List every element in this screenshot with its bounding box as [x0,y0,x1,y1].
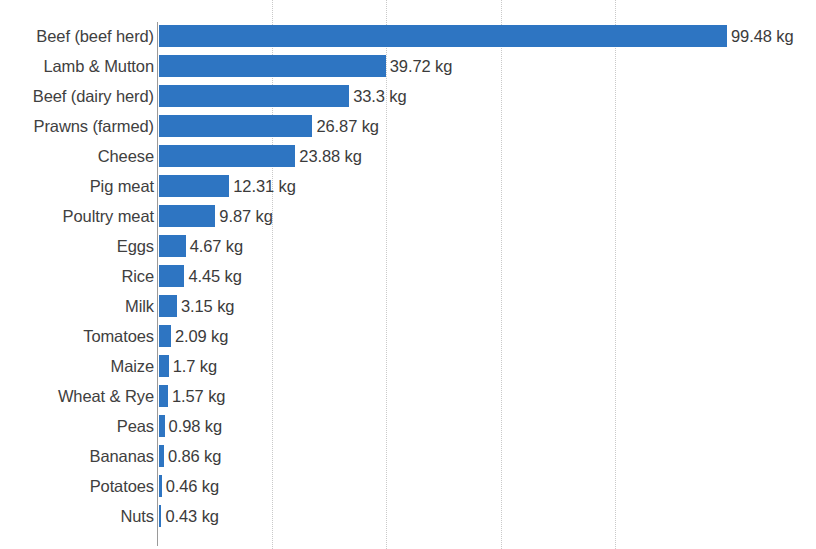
bar-row: Maize1.7 kg [0,351,816,381]
value-label: 39.72 kg [390,51,453,81]
category-label: Beef (beef herd) [0,21,154,51]
bar-row: Poultry meat9.87 kg [0,201,816,231]
value-label: 2.09 kg [175,321,228,351]
bar[interactable] [159,235,186,257]
bar[interactable] [159,85,349,107]
value-label: 0.43 kg [165,501,218,531]
category-label: Poultry meat [0,201,154,231]
value-label: 0.86 kg [168,441,221,471]
bar[interactable] [159,505,161,527]
value-label: 12.31 kg [233,171,296,201]
category-label: Potatoes [0,471,154,501]
bar[interactable] [159,55,386,77]
bar-row: Prawns (farmed)26.87 kg [0,111,816,141]
value-label: 4.45 kg [188,261,241,291]
bar[interactable] [159,145,295,167]
bar-row: Bananas0.86 kg [0,441,816,471]
bar[interactable] [159,415,165,437]
value-label: 0.98 kg [169,411,222,441]
category-label: Beef (dairy herd) [0,81,154,111]
category-label: Milk [0,291,154,321]
category-label: Nuts [0,501,154,531]
value-label: 4.67 kg [190,231,243,261]
category-label: Rice [0,261,154,291]
bar-row: Nuts0.43 kg [0,501,816,531]
value-label: 0.46 kg [166,471,219,501]
category-label: Peas [0,411,154,441]
value-label: 3.15 kg [181,291,234,321]
bar[interactable] [159,115,312,137]
category-label: Lamb & Mutton [0,51,154,81]
bar[interactable] [159,265,184,287]
category-label: Bananas [0,441,154,471]
bar[interactable] [159,175,229,197]
category-label: Wheat & Rye [0,381,154,411]
bar-chart: Beef (beef herd)99.48 kgLamb & Mutton39.… [0,0,816,549]
bar[interactable] [159,475,162,497]
bar[interactable] [159,445,164,467]
value-label: 1.57 kg [172,381,225,411]
bar-row: Cheese23.88 kg [0,141,816,171]
bar-row: Eggs4.67 kg [0,231,816,261]
value-label: 99.48 kg [731,21,794,51]
bar-row: Pig meat12.31 kg [0,171,816,201]
value-label: 33.3 kg [353,81,406,111]
value-label: 9.87 kg [219,201,272,231]
bar-row: Peas0.98 kg [0,411,816,441]
bar[interactable] [159,25,727,47]
value-label: 26.87 kg [316,111,379,141]
bar-row: Beef (beef herd)99.48 kg [0,21,816,51]
category-label: Pig meat [0,171,154,201]
bar[interactable] [159,205,215,227]
bar[interactable] [159,385,168,407]
bar-row: Rice4.45 kg [0,261,816,291]
value-label: 1.7 kg [173,351,217,381]
value-label: 23.88 kg [299,141,362,171]
category-label: Prawns (farmed) [0,111,154,141]
bar-row: Potatoes0.46 kg [0,471,816,501]
bar[interactable] [159,355,169,377]
category-label: Eggs [0,231,154,261]
bar-row: Wheat & Rye1.57 kg [0,381,816,411]
bar-row: Tomatoes2.09 kg [0,321,816,351]
category-label: Tomatoes [0,321,154,351]
category-label: Cheese [0,141,154,171]
bar-row: Lamb & Mutton39.72 kg [0,51,816,81]
bar[interactable] [159,325,171,347]
bar-row: Beef (dairy herd)33.3 kg [0,81,816,111]
bar-row: Milk3.15 kg [0,291,816,321]
category-label: Maize [0,351,154,381]
bar[interactable] [159,295,177,317]
